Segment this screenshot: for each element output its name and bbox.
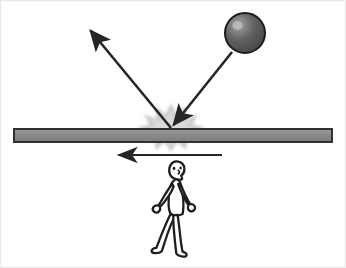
person-eye-left [173, 167, 176, 170]
surface-bar-body [14, 129, 332, 142]
ball-sphere [225, 13, 265, 53]
diagram-svg [0, 0, 346, 268]
person-head [169, 161, 184, 179]
rebound-trajectory-arrow [91, 31, 172, 129]
ball-highlight [232, 21, 242, 30]
person-eye-right [179, 166, 182, 169]
surface-bar [14, 129, 332, 142]
incoming-trajectory-arrow [174, 52, 232, 125]
ball-icon [225, 13, 265, 53]
person-nose [178, 170, 179, 173]
person-front-leg [173, 215, 186, 257]
person-back-leg [152, 214, 175, 253]
walking-person-icon [152, 161, 195, 256]
physics-diagram-canvas [0, 0, 346, 268]
